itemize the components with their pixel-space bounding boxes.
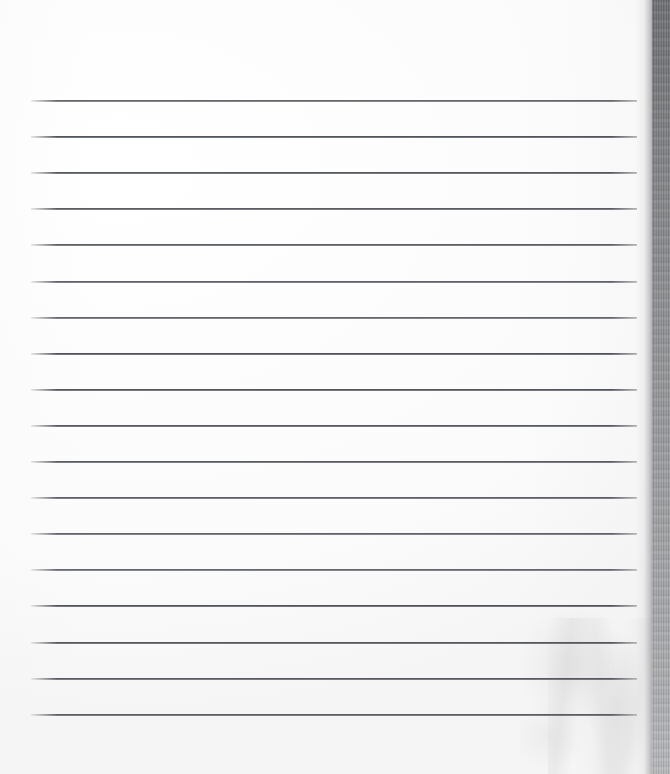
ruled-line <box>31 389 637 391</box>
ruled-line <box>31 208 637 210</box>
ruled-line <box>31 605 637 607</box>
ruled-line <box>31 100 637 102</box>
ruled-line <box>31 281 637 283</box>
paper-sheet <box>0 0 652 774</box>
ruled-line <box>31 678 637 680</box>
ruled-line <box>31 244 637 246</box>
ruled-line <box>31 569 637 571</box>
ruled-line <box>31 317 637 319</box>
ruled-line <box>31 353 637 355</box>
ruled-line <box>31 136 637 138</box>
ruled-line <box>31 642 637 644</box>
scanned-page <box>0 0 670 774</box>
scanner-edge-band <box>652 0 670 774</box>
ruled-line <box>31 461 637 463</box>
ruled-line <box>31 533 637 535</box>
ruled-line <box>31 425 637 427</box>
ruled-line <box>31 497 637 499</box>
scanner-edge-streaks <box>652 0 670 774</box>
ruled-line <box>31 172 637 174</box>
ruled-line <box>31 714 637 716</box>
